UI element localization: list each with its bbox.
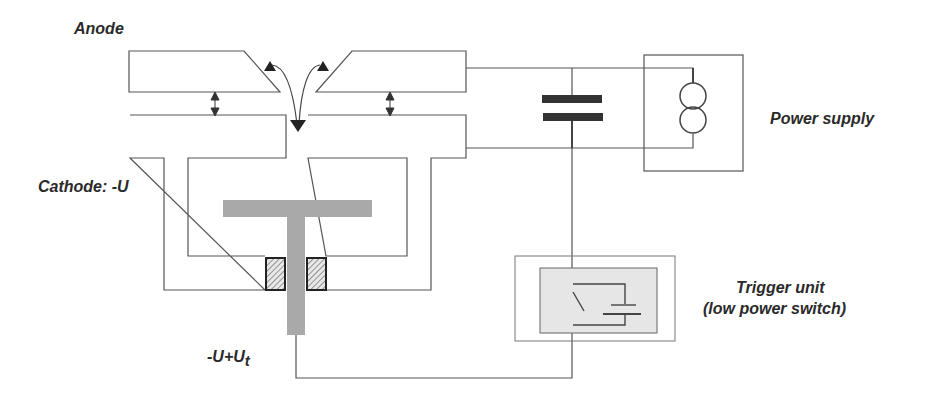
capacitor-plate-top bbox=[542, 95, 602, 103]
trigger-unit-inner bbox=[540, 268, 657, 333]
anode-label: Anode bbox=[74, 20, 124, 38]
wire-top bbox=[466, 68, 693, 82]
trigger-voltage-main: -U+U bbox=[207, 348, 245, 365]
wire-bottom bbox=[466, 134, 693, 148]
anode-left bbox=[129, 51, 280, 92]
power-supply-label: Power supply bbox=[770, 110, 874, 128]
trigger-voltage-subscript: t bbox=[245, 352, 250, 369]
trigger-voltage-label: -U+Ut bbox=[207, 348, 250, 369]
anode-right bbox=[316, 51, 466, 92]
trigger-unit-sublabel: (low power switch) bbox=[703, 300, 846, 318]
circuit-diagram bbox=[0, 0, 943, 399]
insulator-right bbox=[307, 258, 326, 290]
trigger-electrode-stem bbox=[287, 200, 305, 335]
current-source-circle-bottom bbox=[680, 107, 706, 133]
cathode-label: Cathode: -U bbox=[38, 178, 129, 196]
current-source-circle-top bbox=[680, 83, 706, 109]
wire-capacitor-trigger bbox=[296, 121, 572, 378]
insulator-left bbox=[266, 258, 285, 290]
trigger-unit-label: Trigger unit bbox=[736, 279, 825, 297]
capacitor-plate-bottom bbox=[543, 113, 603, 121]
